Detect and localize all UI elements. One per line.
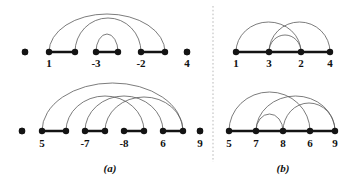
node-label-a-top-7: 4 xyxy=(184,57,190,69)
node-label-b-top-3: 4 xyxy=(327,57,333,69)
arc-diagram-figure: 1-3-245-7-869(a)132457869(b) xyxy=(0,0,350,190)
isolated-dot-a-top-1 xyxy=(184,49,190,55)
arc-a-bottom-1 xyxy=(66,96,144,131)
node-dot-b-top-1 xyxy=(266,49,272,55)
node-dot-a-top-2 xyxy=(72,49,78,55)
node-label-a-bottom-9: 9 xyxy=(197,137,203,149)
arc-row-b-bottom: 57869 xyxy=(226,92,338,149)
panel-caption-b: (b) xyxy=(277,162,290,175)
node-label-a-bottom-7: 6 xyxy=(160,137,166,149)
node-dot-a-bottom-5 xyxy=(121,128,127,134)
node-label-b-top-2: 2 xyxy=(298,57,304,69)
arc-a-top-1 xyxy=(75,18,141,52)
node-label-a-top-5: -2 xyxy=(136,57,146,69)
figure-root: 1-3-245-7-869(a)132457869(b) xyxy=(0,0,350,190)
node-label-b-bottom-0: 5 xyxy=(226,137,232,149)
node-label-b-bottom-4: 9 xyxy=(332,137,338,149)
node-dot-a-bottom-8 xyxy=(180,128,186,134)
arc-b-bottom-2 xyxy=(283,103,335,131)
arc-a-bottom-2 xyxy=(85,96,163,131)
node-dot-a-top-5 xyxy=(138,49,144,55)
node-dot-b-bottom-2 xyxy=(280,128,286,134)
node-dot-b-bottom-1 xyxy=(253,128,259,134)
node-label-b-top-1: 3 xyxy=(266,57,272,69)
arc-a-top-0 xyxy=(49,14,165,52)
node-dot-a-bottom-6 xyxy=(141,128,147,134)
node-dot-a-top-4 xyxy=(115,49,121,55)
arc-row-a-bottom: 5-7-869 xyxy=(19,83,203,149)
node-label-a-bottom-1: 5 xyxy=(39,137,45,149)
arc-b-bottom-0 xyxy=(229,92,310,131)
node-label-b-bottom-2: 8 xyxy=(280,137,286,149)
node-label-a-bottom-5: -8 xyxy=(119,137,129,149)
node-label-b-bottom-3: 6 xyxy=(307,137,313,149)
node-dot-b-top-2 xyxy=(298,49,304,55)
isolated-dot-a-top-0 xyxy=(22,49,28,55)
node-dot-b-bottom-3 xyxy=(307,128,313,134)
node-dot-a-top-1 xyxy=(46,49,52,55)
arc-b-top-0 xyxy=(236,22,301,52)
arc-row-a-top: 1-3-24 xyxy=(22,14,190,69)
panel-a: 1-3-245-7-869(a) xyxy=(19,14,203,175)
panel-b: 132457869(b) xyxy=(226,22,338,175)
node-dot-b-top-0 xyxy=(233,49,239,55)
node-dot-a-bottom-2 xyxy=(63,128,69,134)
node-dot-a-top-3 xyxy=(93,49,99,55)
arc-b-top-2 xyxy=(269,35,301,52)
node-label-a-bottom-3: -7 xyxy=(80,137,90,149)
panel-caption-a: (a) xyxy=(104,162,117,175)
arc-row-b-top: 1324 xyxy=(233,22,333,69)
node-dot-a-top-6 xyxy=(162,49,168,55)
node-dot-a-bottom-1 xyxy=(39,128,45,134)
node-label-b-top-0: 1 xyxy=(233,57,239,69)
node-dot-a-bottom-4 xyxy=(102,128,108,134)
node-dot-b-bottom-4 xyxy=(332,128,338,134)
node-dot-a-bottom-7 xyxy=(160,128,166,134)
node-label-a-top-1: 1 xyxy=(46,57,52,69)
node-label-b-bottom-1: 7 xyxy=(253,137,259,149)
node-dot-b-top-3 xyxy=(327,49,333,55)
node-dot-a-bottom-3 xyxy=(82,128,88,134)
node-label-a-top-3: -3 xyxy=(91,57,101,69)
node-dot-b-bottom-0 xyxy=(226,128,232,134)
isolated-dot-a-bottom-1 xyxy=(197,128,203,134)
arc-a-top-2 xyxy=(96,34,118,52)
isolated-dot-a-bottom-0 xyxy=(19,128,25,134)
arc-b-bottom-3 xyxy=(256,114,283,131)
